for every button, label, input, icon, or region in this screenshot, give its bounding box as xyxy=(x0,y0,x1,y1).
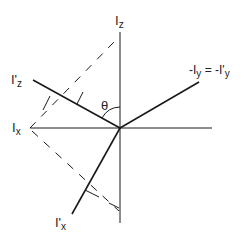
iprime-x-axis xyxy=(72,128,120,214)
tick-iz-lower xyxy=(109,203,119,208)
label-iz: Iz xyxy=(115,13,124,30)
label-iprime-z: I'z xyxy=(11,72,22,89)
label-ix: Ix xyxy=(12,120,21,137)
tick-ipz-1 xyxy=(43,96,50,110)
rotation-diagram: Iz I'z Ix I'x -Iy = -I'y θ xyxy=(0,0,244,241)
projection-dashed-lower xyxy=(32,131,119,211)
label-theta: θ xyxy=(101,98,108,113)
tick-ipx-1 xyxy=(85,190,99,197)
label-neg-iy: -Iy = -I'y xyxy=(189,63,230,79)
neg-iy-axis xyxy=(120,82,199,128)
label-iprime-x: I'x xyxy=(55,215,66,232)
tick-ipz-2 xyxy=(77,92,83,104)
